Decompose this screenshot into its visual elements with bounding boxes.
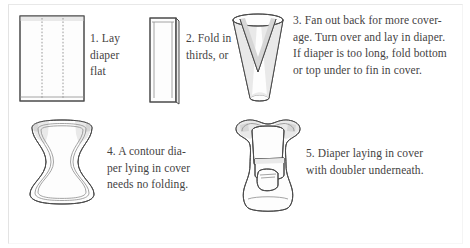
flat-diaper-rectangle-figure — [18, 14, 88, 104]
step-4-caption: 4. A contour dia- per lying in cover nee… — [107, 143, 213, 193]
cover-with-doubler-icon — [228, 115, 308, 215]
contour-diaper-icon — [22, 118, 102, 206]
step-1-caption: 1. Lay diaper flat — [90, 30, 150, 80]
diagram-page: 1. Lay diaper flat 2. Fold in thirds, or — [0, 0, 470, 248]
step-5-caption: 5. Diaper laying in cover with doubler u… — [306, 145, 464, 178]
diaper-folded-in-thirds-figure — [148, 14, 182, 106]
diaper-in-cover-with-doubler-figure — [228, 115, 308, 215]
step-3-caption: 3. Fan out back for more cover- age. Tur… — [293, 12, 465, 78]
flat-diaper-rectangle-icon — [18, 14, 88, 104]
contour-diaper-in-cover-figure — [22, 118, 102, 206]
fanned-diaper-icon — [228, 8, 290, 108]
folded-thirds-icon — [148, 14, 182, 106]
diaper-fanned-out-back-figure — [228, 8, 290, 108]
